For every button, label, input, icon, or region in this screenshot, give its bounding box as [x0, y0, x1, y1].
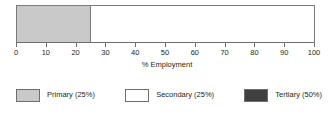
x-axis-tick-label: 90 [280, 48, 288, 57]
legend-swatch-icon [244, 89, 268, 102]
x-axis-tick-mark [254, 43, 255, 47]
x-axis-tick-label: 30 [101, 48, 109, 57]
x-axis-tick-label: 50 [161, 48, 169, 57]
x-axis-tick-mark [16, 43, 17, 47]
legend-swatch-icon [16, 89, 40, 102]
plot-area [16, 5, 314, 43]
x-axis-tick-mark [105, 43, 106, 47]
x-axis-tick-mark [195, 43, 196, 47]
stacked-bar-chart: 0102030405060708090100 % Employment Prim… [0, 0, 334, 114]
legend-swatch-icon [125, 89, 149, 102]
x-axis-tick-mark [225, 43, 226, 47]
x-axis-tick-label: 10 [42, 48, 50, 57]
x-axis-tick-mark [76, 43, 77, 47]
x-axis-tick-label: 70 [220, 48, 228, 57]
legend-item: Tertiary (50%) [244, 89, 322, 102]
x-axis-tick-label: 0 [14, 48, 18, 57]
chart-legend: Primary (25%)Secondary (25%)Tertiary (50… [16, 86, 322, 104]
x-axis-tick-label: 80 [250, 48, 258, 57]
x-axis-tick-mark [284, 43, 285, 47]
legend-item: Primary (25%) [16, 89, 95, 102]
legend-item-label: Secondary (25%) [156, 90, 214, 100]
x-axis-tick-mark [165, 43, 166, 47]
legend-item-label: Primary (25%) [47, 90, 95, 100]
x-axis-title: % Employment [0, 60, 334, 70]
x-axis-tick-mark [314, 43, 315, 47]
x-axis-tick-mark [135, 43, 136, 47]
legend-item: Secondary (25%) [125, 89, 214, 102]
x-axis-tick-label: 40 [131, 48, 139, 57]
x-axis-tick-label: 100 [308, 48, 321, 57]
x-axis-tick-label: 60 [191, 48, 199, 57]
bar-segment-secondary [91, 5, 316, 43]
legend-item-label: Tertiary (50%) [275, 90, 322, 100]
x-axis-tick-label: 20 [71, 48, 79, 57]
bar-segment-primary [16, 5, 91, 43]
x-axis-tick-mark [46, 43, 47, 47]
